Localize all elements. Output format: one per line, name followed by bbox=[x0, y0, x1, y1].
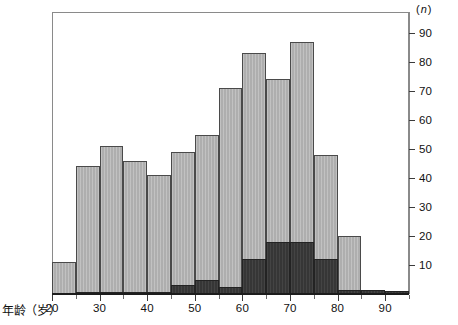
y-axis-tick-label: 10 bbox=[419, 259, 432, 271]
y-axis-tick bbox=[409, 178, 415, 179]
y-axis-tick bbox=[409, 207, 415, 208]
y-axis-title: (n) bbox=[416, 3, 431, 15]
y-axis-title-close-paren: ) bbox=[428, 3, 432, 15]
y-axis-tick-label: 90 bbox=[419, 27, 432, 39]
y-axis-tick-label: 70 bbox=[419, 85, 432, 97]
x-axis-line bbox=[52, 293, 409, 295]
y-axis-tick-label: 50 bbox=[419, 143, 432, 155]
plot-frame bbox=[52, 12, 409, 294]
x-axis-tick bbox=[290, 295, 291, 301]
y-axis-tick bbox=[409, 33, 415, 34]
x-axis-tick-label: 40 bbox=[141, 302, 154, 314]
x-axis-tick bbox=[195, 295, 196, 301]
x-axis-tick bbox=[242, 295, 243, 301]
y-axis-title-symbol: n bbox=[420, 3, 428, 15]
x-axis-tick bbox=[100, 295, 101, 301]
y-axis-tick-label: 60 bbox=[419, 114, 432, 126]
y-axis-tick bbox=[409, 149, 415, 150]
x-axis-minor-tick bbox=[266, 295, 267, 299]
x-axis-minor-tick bbox=[123, 295, 124, 299]
y-axis-tick bbox=[409, 236, 415, 237]
y-axis-tick-label: 20 bbox=[419, 230, 432, 242]
y-axis-tick-label: 40 bbox=[419, 172, 432, 184]
y-axis-tick-label: 80 bbox=[419, 56, 432, 68]
x-axis-minor-tick bbox=[409, 295, 410, 299]
x-axis-title-label: 年龄（岁） bbox=[2, 304, 61, 318]
y-axis-tick bbox=[409, 265, 415, 266]
x-axis-tick-label: 80 bbox=[331, 302, 344, 314]
x-axis-minor-tick bbox=[76, 295, 77, 299]
x-axis-minor-tick bbox=[314, 295, 315, 299]
y-axis-tick bbox=[409, 62, 415, 63]
x-axis-tick bbox=[338, 295, 339, 301]
histogram-figure: 2030405060708090 102030405060708090 年龄（岁… bbox=[0, 0, 458, 325]
x-axis-minor-tick bbox=[171, 295, 172, 299]
y-axis-tick bbox=[409, 91, 415, 92]
y-axis-tick bbox=[409, 120, 415, 121]
x-axis-tick-label: 90 bbox=[379, 302, 392, 314]
x-axis-tick-label: 30 bbox=[93, 302, 106, 314]
x-axis-title: 年龄（岁） bbox=[2, 301, 61, 318]
y-axis-line bbox=[409, 12, 410, 294]
x-axis-tick-label: 50 bbox=[188, 302, 201, 314]
y-axis-tick-label: 30 bbox=[419, 201, 432, 213]
x-axis-tick-label: 70 bbox=[283, 302, 296, 314]
x-axis-tick-label: 60 bbox=[236, 302, 249, 314]
x-axis-minor-tick bbox=[219, 295, 220, 299]
x-axis-tick bbox=[147, 295, 148, 301]
x-axis-minor-tick bbox=[361, 295, 362, 299]
x-axis-tick bbox=[385, 295, 386, 301]
